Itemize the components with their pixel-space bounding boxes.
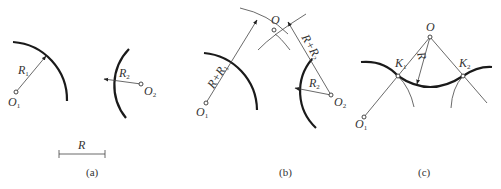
label-o2: O2 [334, 95, 347, 110]
label-r: R [414, 49, 430, 61]
caption-b: (b) [279, 166, 292, 179]
label-k1: K1 [394, 56, 407, 71]
center-o-point [428, 35, 432, 39]
panel-a: R1 O1 R2 O2 R (a) [8, 42, 157, 179]
label-r-plus-r1: R+R1 [204, 61, 231, 92]
label-o1: O1 [355, 117, 368, 132]
center-o2-point [139, 82, 143, 86]
line-o-through-k2 [430, 37, 487, 103]
center-o2-point [329, 93, 333, 97]
arc-2 [114, 49, 129, 118]
label-o: O [426, 20, 435, 34]
radius-r-line [417, 37, 430, 84]
tangent-point-k2 [461, 74, 465, 78]
given-arc-1 [361, 62, 398, 76]
label-r-plus-r2: R+R2 [297, 31, 324, 63]
label-o2: O2 [144, 84, 157, 99]
center-o1-point [14, 90, 18, 94]
panel-c: O K1 K2 R O1 (c) [355, 20, 492, 179]
caption-a: (a) [86, 166, 99, 179]
panel-b: O R+R1 O1 R+R2 R2 O2 (b) [196, 8, 347, 179]
center-o-point [272, 28, 276, 32]
label-k2: K2 [458, 56, 471, 71]
label-o: O [271, 13, 280, 27]
tangent-arc-r [398, 76, 463, 87]
label-r2: R2 [118, 66, 130, 81]
arc-2 [300, 59, 316, 128]
tangent-point-k1 [396, 74, 400, 78]
arc-tangency-construction-diagram: R1 O1 R2 O2 R (a) O R+R1 O1 R+R2 R2 O2 (… [0, 0, 501, 189]
label-o1: O1 [196, 105, 209, 120]
locus-arc-1b [258, 14, 306, 50]
label-r2: R2 [308, 76, 320, 91]
locus-arc-1 [240, 8, 288, 34]
locus-arc-2 [275, 34, 290, 50]
label-r: R [77, 138, 86, 152]
radius-r-plus-r1-line [206, 20, 257, 103]
label-r1: R1 [17, 63, 29, 78]
caption-c: (c) [418, 166, 431, 179]
label-o1: O1 [8, 95, 21, 110]
